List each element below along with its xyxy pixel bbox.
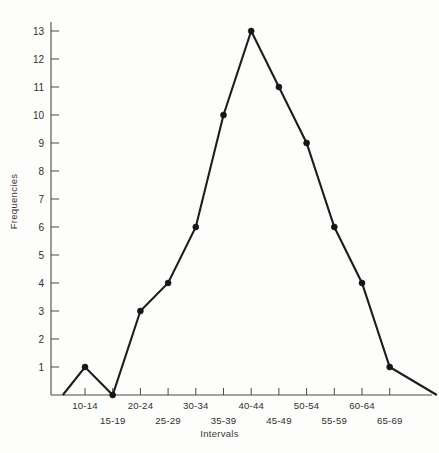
y-tick-label: 2	[38, 334, 44, 345]
data-point-marker	[82, 364, 88, 370]
x-axis-title: Intervals	[0, 428, 439, 439]
x-tick-label: 20-24	[128, 400, 154, 411]
y-tick-label: 13	[33, 26, 45, 37]
series-polyline	[63, 31, 437, 395]
data-point-marker	[221, 112, 227, 118]
data-point-marker	[304, 140, 310, 146]
x-tick-label: 35-39	[211, 415, 237, 426]
x-tick-label: 60-64	[349, 400, 375, 411]
data-point-marker	[331, 224, 337, 230]
data-point-marker	[276, 84, 282, 90]
x-tick-label: 45-49	[266, 415, 292, 426]
y-tick-label: 4	[38, 278, 44, 289]
y-tick-label: 1	[38, 362, 44, 373]
y-tick-label: 7	[38, 194, 44, 205]
x-tick-label: 15-19	[100, 415, 126, 426]
y-tick-label: 11	[34, 82, 45, 93]
y-axis: 12345678910111213	[33, 22, 59, 395]
data-point-marker	[137, 308, 143, 314]
x-tick-label: 10-14	[72, 400, 98, 411]
y-tick-label: 10	[33, 110, 45, 121]
data-point-marker	[165, 280, 171, 286]
data-point-marker	[248, 28, 254, 34]
y-tick-label: 8	[38, 166, 44, 177]
x-tick-label: 55-59	[322, 415, 348, 426]
data-point-markers	[82, 28, 393, 398]
x-tick-label: 65-69	[377, 415, 403, 426]
data-series-frequencies	[63, 31, 437, 395]
y-axis-title: Frequencies	[8, 162, 19, 242]
x-axis-tick-labels: 10-1415-1920-2425-2930-3435-3940-4445-49…	[72, 400, 402, 426]
data-point-marker	[359, 280, 365, 286]
plot-area: 12345678910111213 10-1415-1920-2425-2930…	[0, 0, 439, 453]
data-point-marker	[193, 224, 199, 230]
data-point-marker	[110, 392, 116, 398]
x-tick-label: 50-54	[294, 400, 320, 411]
y-tick-label: 9	[38, 138, 44, 149]
y-tick-label: 5	[38, 250, 44, 261]
x-tick-label: 30-34	[183, 400, 209, 411]
y-tick-label: 6	[38, 222, 44, 233]
frequency-polygon-chart: 12345678910111213 10-1415-1920-2425-2930…	[0, 0, 439, 453]
y-tick-label: 3	[38, 306, 44, 317]
y-tick-label: 12	[33, 54, 45, 65]
x-tick-label: 40-44	[238, 400, 264, 411]
data-point-marker	[387, 364, 393, 370]
x-tick-label: 25-29	[155, 415, 181, 426]
